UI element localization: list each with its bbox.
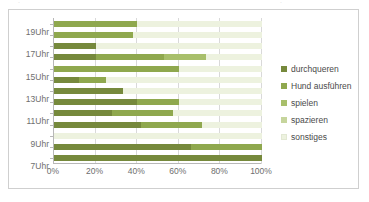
bar-segment[interactable] [54,110,112,116]
legend-item[interactable]: sonstiges [281,128,357,145]
bar-segment[interactable] [54,144,191,150]
bar-row[interactable] [54,122,261,128]
text-fragment-left: . [18,0,20,4]
y-axis-tick [50,113,53,114]
x-axis: 0%20%40%60%80%100% [53,166,263,180]
bar-segment[interactable] [164,54,206,60]
bar-row[interactable] [54,144,261,150]
y-axis-tick-label: 13Uhr [26,94,49,104]
bar-segment[interactable] [96,54,165,60]
bar-segment[interactable] [54,99,137,105]
bar-segment[interactable] [96,43,262,49]
y-axis-tick [50,24,53,25]
bar-segment[interactable] [123,88,262,94]
bar-segment[interactable] [54,88,123,94]
legend-item[interactable]: spielen [281,94,357,111]
bar-segment[interactable] [173,110,262,116]
bar-segment[interactable] [54,77,79,83]
bar-row[interactable] [54,88,261,94]
y-axis-tick [50,46,53,47]
y-axis-tick [50,35,53,36]
bar-segment[interactable] [54,66,179,72]
bar-row[interactable] [54,32,261,38]
x-axis-tick-label: 60% [169,166,186,176]
bar-segment[interactable] [191,144,262,150]
legend-item-label: sonstiges [291,132,327,142]
bar-segment[interactable] [54,122,141,128]
bar-row[interactable] [54,99,261,105]
bar-row[interactable] [54,21,261,27]
bar-segment[interactable] [54,43,96,49]
legend-item-label: spazieren [291,115,328,125]
bar-segment[interactable] [112,110,172,116]
legend-swatch-icon [281,66,287,72]
bar-segment[interactable] [54,32,133,38]
bar-row[interactable] [54,43,261,49]
bar-row[interactable] [54,110,261,116]
legend-swatch-icon [281,134,287,140]
y-axis-tick [50,102,53,103]
bar-segment[interactable] [206,54,262,60]
bar-segment[interactable] [137,21,262,27]
legend-item-label: Hund ausführen [291,81,352,91]
cropped-text-artifacts: . . [0,0,369,9]
legend-item[interactable]: Hund ausführen [281,77,357,94]
y-axis-tick-label: 11Uhr [26,116,49,126]
y-axis-tick-label: 19Uhr [26,27,49,37]
bar-segment[interactable] [54,21,137,27]
chart-container: 19Uhr17Uhr15Uhr13Uhr11Uhr9Uhr7Uhr 0%20%4… [8,9,359,189]
bar-row[interactable] [54,54,261,60]
y-axis-tick-label: 9Uhr [31,139,49,149]
y-axis: 19Uhr17Uhr15Uhr13Uhr11Uhr9Uhr7Uhr [9,18,51,164]
bar-row[interactable] [54,133,261,139]
bar-segment[interactable] [54,155,262,161]
bar-segment[interactable] [137,99,179,105]
legend-item-label: spielen [291,98,318,108]
bar-segment[interactable] [202,122,262,128]
y-axis-tick [50,158,53,159]
y-axis-tick [50,69,53,70]
plot-area [53,18,261,164]
legend-swatch-icon [281,117,287,123]
x-axis-tick-label: 20% [86,166,103,176]
bar-row[interactable] [54,66,261,72]
y-axis-tick [50,91,53,92]
legend-item[interactable]: durchqueren [281,60,357,77]
legend-item-label: durchqueren [291,64,339,74]
bar-segment[interactable] [106,77,262,83]
bar-segment[interactable] [179,66,262,72]
y-axis-tick-label: 17Uhr [26,49,49,59]
x-axis-tick-label: 0% [47,166,59,176]
y-axis-tick [50,136,53,137]
plot-wrapper: 19Uhr17Uhr15Uhr13Uhr11Uhr9Uhr7Uhr 0%20%4… [9,10,271,188]
bar-segment[interactable] [179,99,262,105]
chart-legend: durchquerenHund ausführenspielenspaziere… [281,60,357,145]
bar-segment[interactable] [54,133,262,139]
bar-segment[interactable] [141,122,201,128]
x-axis-tick-label: 80% [211,166,228,176]
x-axis-tick-label: 100% [250,166,272,176]
bar-row[interactable] [54,77,261,83]
y-axis-tick-label: 15Uhr [26,72,49,82]
bar-segment[interactable] [79,77,106,83]
text-fragment-right: . [280,0,282,4]
y-axis-tick [50,147,53,148]
bar-segment[interactable] [133,32,262,38]
bar-segment[interactable] [54,54,96,60]
y-axis-tick [50,57,53,58]
legend-swatch-icon [281,83,287,89]
bar-series-group [54,18,261,164]
legend-item[interactable]: spazieren [281,111,357,128]
y-axis-tick [50,125,53,126]
bar-row[interactable] [54,155,261,161]
x-axis-tick-label: 40% [128,166,145,176]
y-axis-tick [50,80,53,81]
legend-swatch-icon [281,100,287,106]
